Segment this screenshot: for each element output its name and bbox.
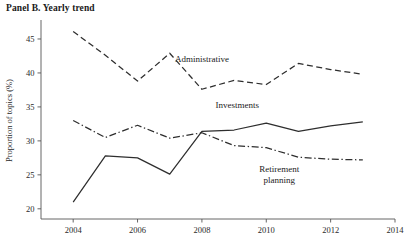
x-tick-label: 2006 — [129, 225, 146, 235]
x-tick-label: 2008 — [193, 225, 210, 235]
y-tick-label: 20 — [26, 204, 35, 214]
y-axis: 202530354045 — [26, 20, 41, 219]
series-label-retirement-planning-line2: planning — [263, 175, 295, 185]
line-chart: 202530354045 200420062008201020122014 Pr… — [0, 14, 405, 249]
series-labels: AdministrativeInvestmentsRetirementplann… — [175, 54, 300, 185]
x-tick-label: 2014 — [387, 225, 405, 235]
y-tick-label: 45 — [26, 34, 35, 44]
y-tick-label: 35 — [26, 102, 35, 112]
y-axis-title: Proportion of topics (%) — [4, 79, 14, 162]
series-label-retirement-planning-line1: Retirement — [259, 164, 299, 174]
x-tick-label: 2012 — [322, 225, 339, 235]
y-tick-label: 25 — [26, 170, 35, 180]
series-label-administrative: Administrative — [175, 54, 229, 64]
y-axis-ticks: 202530354045 — [26, 34, 41, 214]
page-title: Panel B. Yearly trend — [6, 3, 95, 13]
chart-svg: 202530354045 200420062008201020122014 Pr… — [0, 14, 405, 249]
x-axis-ticks: 200420062008201020122014 — [65, 219, 405, 235]
y-tick-label: 30 — [26, 136, 35, 146]
series-line-investments — [73, 122, 363, 202]
x-axis: 200420062008201020122014 — [41, 219, 404, 235]
x-tick-label: 2010 — [258, 225, 275, 235]
series-label-investments: Investments — [216, 100, 260, 110]
chart-panel: Panel B. Yearly trend 202530354045 20042… — [0, 0, 405, 249]
series-line-retirement-planning — [73, 121, 363, 160]
x-tick-label: 2004 — [65, 225, 83, 235]
y-tick-label: 40 — [26, 68, 35, 78]
